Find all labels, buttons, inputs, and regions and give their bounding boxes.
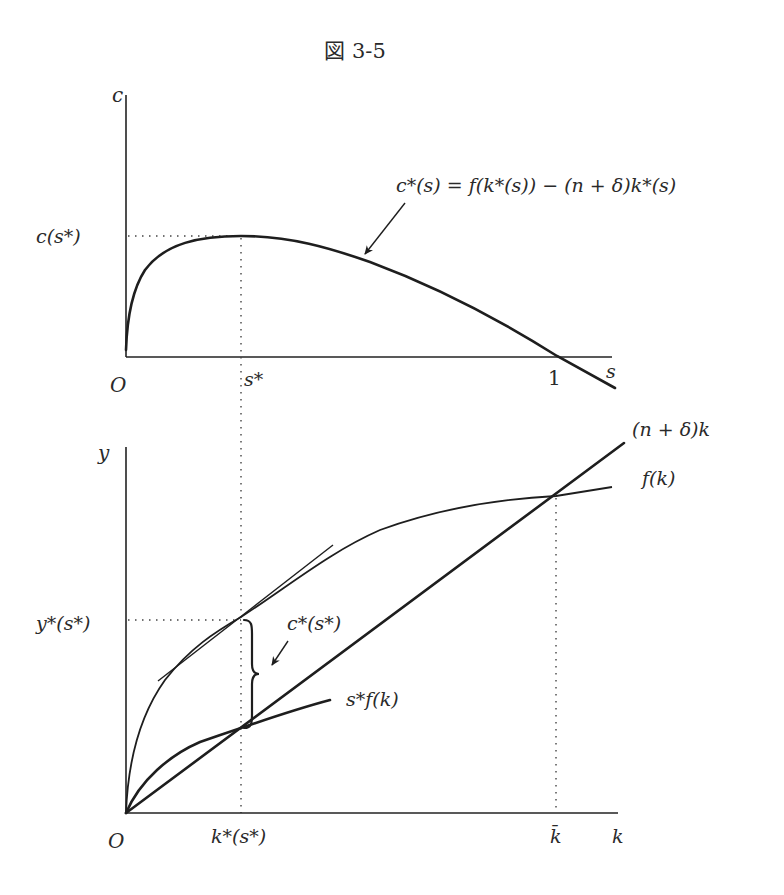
consumption-curve <box>126 236 615 388</box>
y-axis-label: y <box>97 441 110 465</box>
k-star-tick-label: k*(s*) <box>211 825 266 847</box>
y-star-label: y*(s*) <box>35 612 90 634</box>
depreciation-line <box>126 443 624 813</box>
brace-label: c*(s*) <box>287 612 341 634</box>
saving-curve <box>126 700 330 813</box>
c-axis-label: c <box>112 83 123 107</box>
k-bar-tick-label: k̄ <box>550 824 562 847</box>
production-curve-label: f(k) <box>640 467 675 489</box>
s-star-tick-label: s* <box>244 368 264 390</box>
k-axis-label: k <box>612 825 624 847</box>
saving-curve-label: s*f(k) <box>346 688 399 710</box>
figure-title: 図 3-5 <box>324 39 386 63</box>
brace-arrow-icon <box>272 641 288 665</box>
c-s-star-label: c(s*) <box>36 225 81 247</box>
consumption-curve-label: c*(s) = f(k*(s)) − (n + δ)k*(s) <box>396 174 676 196</box>
curve-arrow-icon <box>365 203 405 254</box>
bottom-origin-label: O <box>108 829 124 853</box>
bottom-panel: y O k*(s*) k̄ k y*(s*) (n + δ)k f(k) s*f… <box>35 418 710 853</box>
s-axis-label: s <box>606 360 616 382</box>
consumption-brace-icon <box>244 620 259 728</box>
golden-rule-diagram: 図 3-5 c O s* 1 s c(s*) c*(s) = f(k*(s)) … <box>0 0 784 895</box>
depreciation-line-label: (n + δ)k <box>632 418 710 440</box>
one-tick-label: 1 <box>548 366 561 390</box>
top-origin-label: O <box>110 373 126 397</box>
